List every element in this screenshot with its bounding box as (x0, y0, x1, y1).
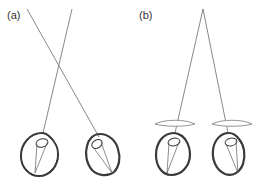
ray-to-left-eye (175, 9, 203, 133)
focus-cone-line (101, 142, 112, 173)
eye-right (86, 134, 119, 175)
panel-a-label: (a) (7, 9, 20, 21)
eye-left (21, 133, 58, 176)
panel-b-label: (b) (139, 9, 152, 21)
eye-right-b (213, 133, 245, 175)
ray-to-right-eye (203, 9, 228, 133)
eyeball-outline (86, 134, 119, 175)
corrective-lens-left (155, 120, 195, 126)
ray-right-to-left-eye (43, 9, 72, 133)
eye-optics-diagram: (a) (b) (0, 0, 264, 184)
eye-left-b (156, 133, 190, 175)
corrective-lens-right (212, 120, 252, 126)
panel-b: (b) (139, 9, 252, 175)
panel-a: (a) (7, 9, 119, 176)
ray-left-to-right-eye (27, 9, 99, 137)
focus-cone-line (93, 147, 112, 173)
eye-lens (167, 137, 180, 147)
